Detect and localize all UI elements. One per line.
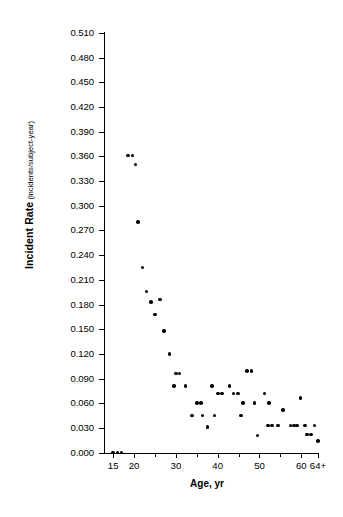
x-axis-line — [104, 453, 319, 454]
data-point — [316, 439, 320, 443]
data-point — [126, 154, 130, 158]
y-tick-label: 0.090 — [42, 373, 94, 384]
data-point — [141, 266, 145, 270]
x-tick-mark — [301, 453, 302, 458]
data-point — [228, 384, 232, 388]
y-tick-mark — [99, 33, 104, 34]
x-axis-title: Age, yr — [147, 478, 267, 489]
y-axis-title-main: Incident Rate — [23, 202, 35, 269]
data-point — [145, 290, 149, 294]
y-tick-mark — [99, 255, 104, 256]
data-point — [256, 434, 260, 438]
data-point — [236, 392, 240, 396]
data-point — [239, 414, 243, 418]
data-point — [184, 384, 188, 388]
data-point — [136, 220, 140, 224]
data-point — [178, 372, 182, 376]
x-tick-mark — [176, 453, 177, 458]
y-tick-label: 0.390 — [42, 126, 94, 137]
data-point — [134, 163, 138, 167]
y-tick-label: 0.360 — [42, 150, 94, 161]
y-tick-label: 0.120 — [42, 348, 94, 359]
data-point — [190, 414, 194, 418]
data-point — [309, 433, 313, 437]
y-tick-label: 0.510 — [42, 27, 94, 38]
x-tick-mark-minor — [197, 453, 198, 457]
data-point — [241, 401, 245, 405]
data-point — [263, 392, 267, 396]
x-tick-mark-minor — [155, 453, 156, 457]
data-point — [199, 401, 203, 405]
x-tick-label: 64+ — [298, 460, 338, 471]
x-tick-mark — [318, 453, 319, 458]
y-tick-mark — [99, 58, 104, 59]
y-tick-mark — [99, 329, 104, 330]
data-point — [162, 329, 166, 333]
y-tick-label: 0.300 — [42, 200, 94, 211]
data-point — [245, 369, 249, 373]
x-tick-mark-minor — [280, 453, 281, 457]
data-point — [206, 425, 210, 429]
y-tick-label: 0.150 — [42, 323, 94, 334]
data-point — [158, 298, 162, 302]
x-tick-mark — [218, 453, 219, 458]
data-point — [270, 424, 274, 428]
scatter-chart: Incident Rate (incidents/subject-year) 0… — [0, 0, 343, 517]
y-tick-label: 0.240 — [42, 249, 94, 260]
data-point — [195, 401, 199, 405]
y-tick-mark — [99, 82, 104, 83]
data-point — [131, 154, 135, 158]
data-point — [253, 401, 257, 405]
y-tick-label: 0.480 — [42, 52, 94, 63]
y-tick-label: 0.180 — [42, 299, 94, 310]
y-tick-mark — [99, 280, 104, 281]
y-tick-label: 0.030 — [42, 422, 94, 433]
y-tick-mark — [99, 230, 104, 231]
y-tick-mark — [99, 428, 104, 429]
data-point — [299, 396, 303, 400]
y-tick-label: 0.330 — [42, 175, 94, 186]
y-tick-label: 0.060 — [42, 397, 94, 408]
y-axis-title-units: (incidents/subject-year) — [26, 121, 35, 202]
data-point — [201, 414, 205, 418]
data-point — [232, 392, 236, 396]
data-point — [266, 424, 270, 428]
y-tick-label: 0.000 — [42, 447, 94, 458]
data-point — [168, 352, 172, 356]
y-tick-mark — [99, 206, 104, 207]
data-point — [149, 300, 153, 304]
y-tick-mark — [99, 132, 104, 133]
data-point — [172, 384, 176, 388]
x-tick-mark — [259, 453, 260, 458]
y-axis-line — [104, 32, 105, 454]
y-tick-label: 0.420 — [42, 101, 94, 112]
y-tick-label: 0.270 — [42, 224, 94, 235]
y-tick-mark — [99, 156, 104, 157]
data-point — [210, 384, 214, 388]
y-tick-mark — [99, 107, 104, 108]
y-axis-title: Incident Rate (incidents/subject-year) — [19, 75, 37, 315]
data-point — [220, 392, 224, 396]
y-tick-mark — [99, 354, 104, 355]
x-tick-label: 50 — [239, 460, 279, 471]
x-tick-label: 20 — [114, 460, 154, 471]
data-point — [313, 424, 317, 428]
x-tick-mark-minor — [239, 453, 240, 457]
y-tick-label: 0.450 — [42, 76, 94, 87]
data-point — [276, 424, 280, 428]
data-point — [250, 369, 254, 373]
data-point — [213, 414, 217, 418]
y-tick-label: 0.210 — [42, 274, 94, 285]
y-tick-mark — [99, 305, 104, 306]
y-tick-mark — [99, 453, 104, 454]
y-tick-mark — [99, 181, 104, 182]
data-point — [295, 424, 299, 428]
data-point — [303, 424, 307, 428]
x-tick-label: 40 — [198, 460, 238, 471]
y-tick-mark — [99, 379, 104, 380]
x-tick-label: 30 — [156, 460, 196, 471]
data-point — [281, 408, 285, 412]
y-tick-mark — [99, 403, 104, 404]
data-point — [267, 401, 271, 405]
data-point — [153, 313, 157, 317]
